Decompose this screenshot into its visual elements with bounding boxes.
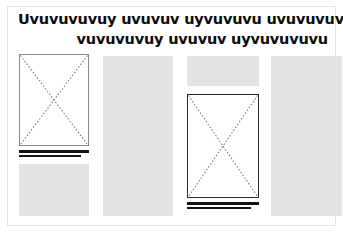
text-block bbox=[271, 56, 342, 216]
headline: Uvuvuvuvuy uvuvuv uyvuvuvu uvuvuvuvu vuv… bbox=[18, 9, 328, 51]
text-block bbox=[19, 164, 89, 216]
placeholder-x-icon bbox=[188, 95, 258, 197]
wireframe-page: Uvuvuvuvuy uvuvuv uyvuvuvu uvuvuvuvu vuv… bbox=[0, 0, 343, 234]
caption-rules-1 bbox=[19, 150, 89, 159]
image-placeholder-1[interactable] bbox=[19, 54, 89, 146]
caption-rule bbox=[187, 202, 259, 205]
caption-rules-2 bbox=[187, 202, 259, 211]
layout-column-3 bbox=[187, 54, 259, 216]
image-placeholder-2[interactable] bbox=[187, 94, 259, 198]
text-block bbox=[103, 56, 173, 216]
layout-column-4 bbox=[271, 54, 342, 216]
caption-rule bbox=[187, 207, 251, 210]
layout-column-2 bbox=[103, 54, 173, 216]
text-block bbox=[187, 56, 259, 86]
caption-rule bbox=[19, 150, 89, 153]
column-grid bbox=[19, 54, 324, 216]
layout-column-1 bbox=[19, 54, 89, 216]
headline-line-2: vuvuvuvuy uvuvuv uyvuvuvuvu bbox=[18, 29, 328, 49]
caption-rule bbox=[19, 155, 81, 158]
placeholder-x-icon bbox=[20, 55, 88, 145]
headline-line-1: Uvuvuvuvuy uvuvuv uyvuvuvu uvuvuvuvu bbox=[18, 9, 328, 29]
